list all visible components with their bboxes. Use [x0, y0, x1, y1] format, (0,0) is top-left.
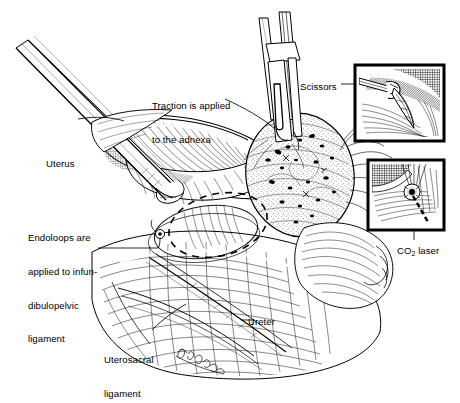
label-traction-line2: to the adnexa [152, 134, 230, 145]
scissors-inset-box [355, 65, 444, 141]
label-traction: Traction is applied to the adnexa [152, 78, 230, 168]
label-endoloops: Endoloops are applied to infun- dibulope… [28, 210, 97, 367]
label-uterosacral-line1: Uterosacral [104, 354, 154, 365]
label-co2-prefix: CO [397, 245, 412, 256]
label-traction-line1: Traction is applied [152, 100, 230, 111]
label-endoloops-line2: applied to infun- [28, 266, 97, 277]
label-co2-laser: CO2 laser [397, 245, 439, 259]
label-uterosacral-line2: ligament [104, 388, 154, 399]
label-scissors: Scissors [300, 81, 337, 92]
label-uterosacral-ligament: Uterosacral ligament [104, 332, 154, 403]
label-endoloops-line4: ligament [28, 333, 97, 344]
label-uterus: Uterus [46, 158, 75, 169]
label-endoloops-line3: dibulopelvic [28, 300, 97, 311]
co2-laser-inset-box [368, 160, 444, 230]
label-ureter: Ureter [248, 316, 275, 327]
label-co2-suffix: laser [415, 245, 439, 256]
label-endoloops-line1: Endoloops are [28, 232, 97, 243]
